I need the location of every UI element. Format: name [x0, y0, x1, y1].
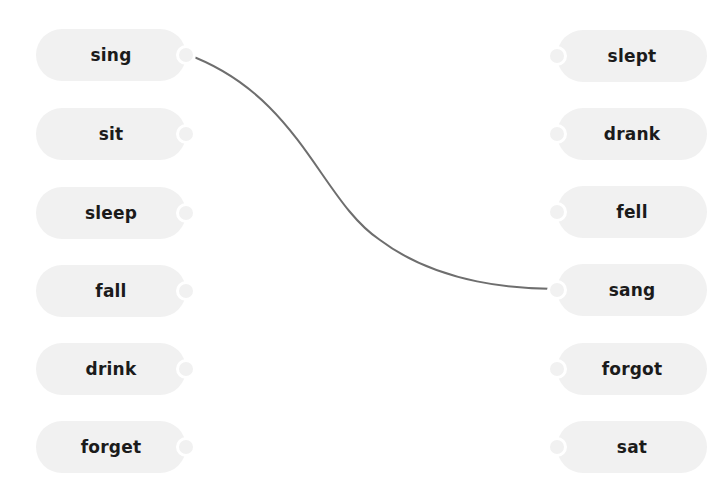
connector-handle[interactable] — [550, 49, 564, 63]
connector-handle[interactable] — [550, 440, 564, 454]
connector-handle[interactable] — [179, 440, 193, 454]
left-word-sing[interactable]: sing — [36, 29, 186, 81]
connector-handle[interactable] — [550, 283, 564, 297]
word-label: sang — [609, 280, 656, 300]
left-word-forget[interactable]: forget — [36, 421, 186, 473]
right-word-drank[interactable]: drank — [557, 108, 707, 160]
left-word-drink[interactable]: drink — [36, 343, 186, 395]
left-word-sleep[interactable]: sleep — [36, 187, 186, 239]
word-label: sat — [617, 437, 647, 457]
connector-handle[interactable] — [179, 206, 193, 220]
word-label: fall — [95, 281, 126, 301]
connector-handle[interactable] — [179, 127, 193, 141]
word-label: forgot — [602, 359, 663, 379]
word-label: drink — [86, 359, 137, 379]
right-word-sat[interactable]: sat — [557, 421, 707, 473]
right-word-sang[interactable]: sang — [557, 264, 707, 316]
word-label: fell — [616, 202, 647, 222]
word-label: sing — [90, 45, 131, 65]
right-word-fell[interactable]: fell — [557, 186, 707, 238]
left-word-sit[interactable]: sit — [36, 108, 186, 160]
connector-handle[interactable] — [179, 284, 193, 298]
connection-line-sing-sang[interactable] — [186, 54, 556, 289]
left-word-fall[interactable]: fall — [36, 265, 186, 317]
word-label: sleep — [85, 203, 137, 223]
right-word-slept[interactable]: slept — [557, 30, 707, 82]
connector-handle[interactable] — [179, 362, 193, 376]
connector-handle[interactable] — [550, 205, 564, 219]
word-label: drank — [604, 124, 660, 144]
connector-handle[interactable] — [550, 362, 564, 376]
connector-handle[interactable] — [550, 127, 564, 141]
right-word-forgot[interactable]: forgot — [557, 343, 707, 395]
word-label: slept — [608, 46, 657, 66]
word-label: sit — [99, 124, 124, 144]
word-label: forget — [81, 437, 141, 457]
connector-handle[interactable] — [179, 48, 193, 62]
